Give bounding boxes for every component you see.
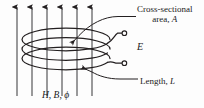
label-field-quantities: H, B, ϕ: [42, 90, 69, 100]
terminal-circle-icon: [122, 31, 127, 36]
inductor-coil-diagram: Cross-sectional area, A E Length, L H, B…: [0, 0, 204, 108]
label-emf-symbol: E: [137, 42, 143, 52]
terminal-circle-icon: [122, 61, 127, 66]
length-symbol: L: [170, 76, 175, 86]
cross-section-area-prefix: area,: [152, 14, 171, 24]
magnetic-field-arrow-group: [17, 7, 92, 96]
helical-coil-icon: [22, 28, 110, 70]
label-length: Length, L: [140, 76, 175, 86]
leader-arrow-icon: [82, 68, 138, 80]
cross-section-line1: Cross-sectional: [137, 4, 193, 14]
field-symbols: H, B, ϕ: [42, 90, 69, 100]
length-prefix: Length,: [140, 76, 170, 86]
leader-arrow-icon: [72, 17, 137, 44]
coil-turn-2: [22, 38, 110, 61]
terminal-lead-bottom: [107, 62, 122, 63]
cross-section-line2: area, A: [137, 14, 193, 24]
label-cross-sectional-area: Cross-sectional area, A: [137, 4, 193, 24]
cross-section-area-symbol: A: [172, 14, 178, 24]
